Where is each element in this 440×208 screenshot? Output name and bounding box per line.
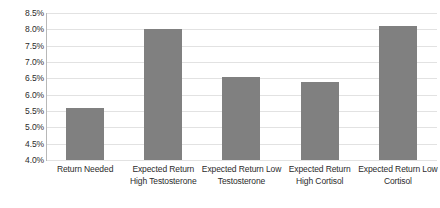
y-axis-tick-label: 4.0% (0, 155, 44, 165)
y-axis-tick-label: 6.5% (0, 73, 44, 83)
x-axis-tick-label-line: Return Needed (42, 164, 128, 176)
bar-slot (281, 82, 359, 160)
bar[interactable] (379, 26, 417, 160)
bar-slot (124, 29, 202, 160)
x-axis-tick-label-line: Expected Return Low (355, 164, 440, 176)
x-axis-tick-label-line: Expected Return (120, 164, 206, 176)
y-axis-tick-label: 6.0% (0, 90, 44, 100)
x-axis-tick-label-line: Testosterone (199, 176, 285, 188)
x-axis-tick-label-line: Cortisol (355, 176, 440, 188)
bar-slot (46, 108, 124, 160)
y-axis-tick-label: 5.5% (0, 106, 44, 116)
x-axis-tick-label: Expected Return LowTestosterone (199, 164, 285, 187)
bar-chart: 8.5%8.0%7.5%7.0%6.5%6.0%5.5%5.0%4.5%4.0%… (0, 0, 440, 208)
x-axis-tick-label-line: High Cortisol (277, 176, 363, 188)
x-axis-tick-label-line: High Testosterone (120, 176, 206, 188)
bar[interactable] (66, 108, 104, 160)
y-axis-tick-labels: 8.5%8.0%7.5%7.0%6.5%6.0%5.5%5.0%4.5%4.0% (0, 0, 44, 208)
bar-slot (202, 77, 280, 160)
x-axis-tick-label-line: Expected Return (277, 164, 363, 176)
y-axis-tick-label: 7.5% (0, 41, 44, 51)
x-axis-tick-label: Expected Return LowCortisol (355, 164, 440, 187)
x-axis-tick-label: Expected ReturnHigh Testosterone (120, 164, 206, 187)
bar[interactable] (144, 29, 182, 160)
y-axis-tick-label: 4.5% (0, 139, 44, 149)
y-axis-tick-label: 7.0% (0, 57, 44, 67)
bar[interactable] (222, 77, 260, 160)
y-axis-tick-label: 8.0% (0, 24, 44, 34)
bar[interactable] (301, 82, 339, 160)
y-axis-tick-label: 5.0% (0, 122, 44, 132)
x-axis-tick-label-line: Expected Return Low (199, 164, 285, 176)
y-axis-tick-label: 8.5% (0, 8, 44, 18)
bar-slot (359, 26, 437, 160)
x-axis-tick-label: Expected ReturnHigh Cortisol (277, 164, 363, 187)
x-axis-tick-label: Return Needed (42, 164, 128, 176)
